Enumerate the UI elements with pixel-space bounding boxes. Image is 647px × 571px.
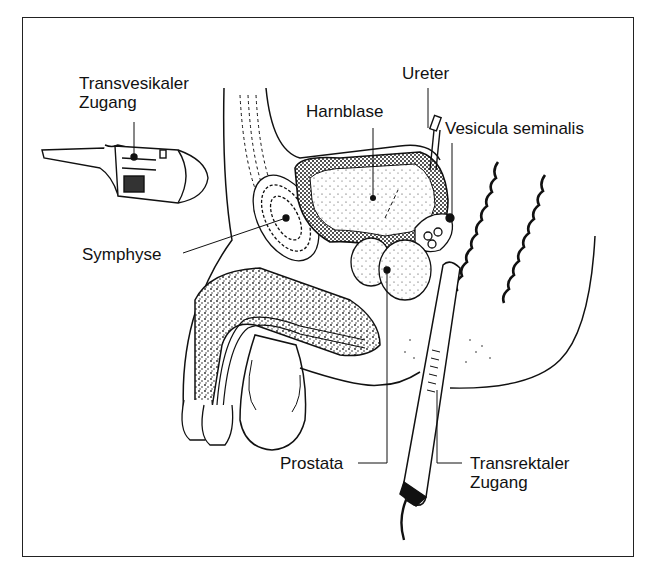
label-prostate: Prostata <box>280 454 343 473</box>
label-transvesical-approach: Transvesikaler Zugang <box>79 74 189 112</box>
testis-shape <box>240 335 306 450</box>
label-bladder: Harnblase <box>306 102 384 121</box>
transrectal-probe-icon <box>400 262 460 540</box>
label-symphysis: Symphyse <box>82 245 161 264</box>
label-ureter: Ureter <box>402 64 449 83</box>
transvesical-probe-icon <box>42 145 208 203</box>
label-transrectal-approach: Transrektaler Zugang <box>470 454 570 492</box>
label-seminal-vesicle: Vesicula seminalis <box>445 119 584 138</box>
prostate-shape <box>351 238 431 300</box>
rectum-shape <box>451 162 545 304</box>
